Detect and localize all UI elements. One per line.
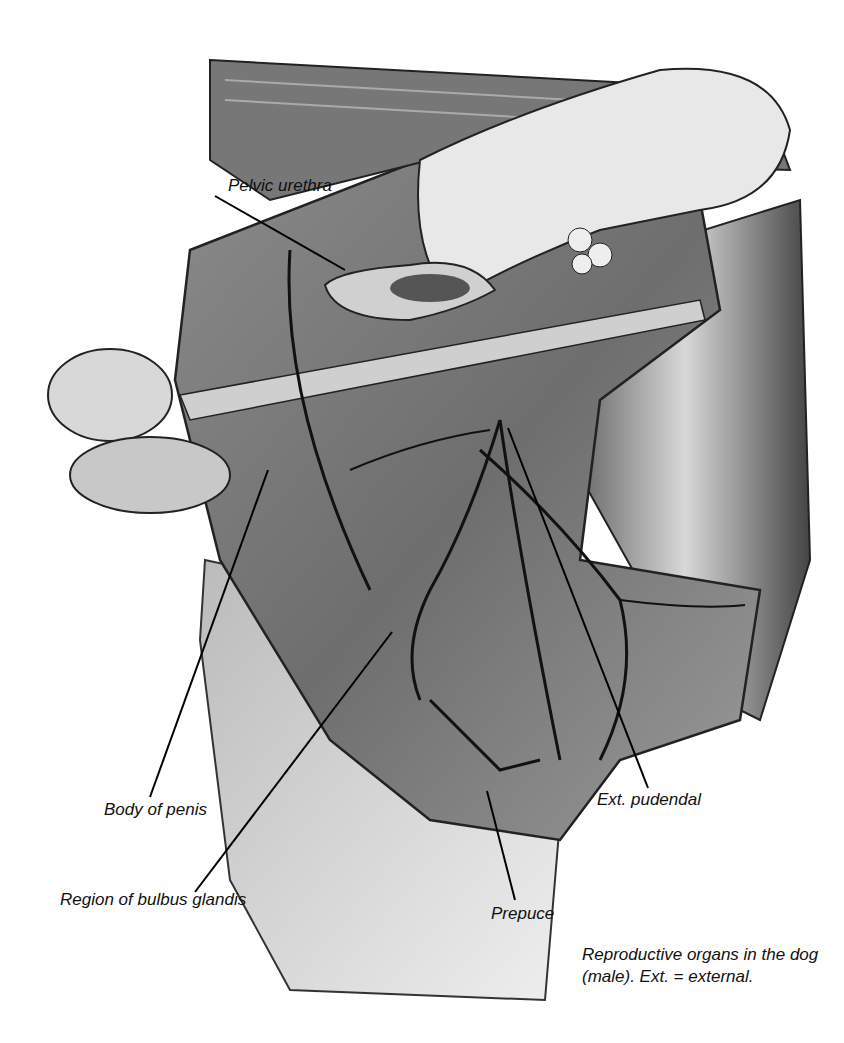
label-prepuce: Prepuce [491, 904, 554, 924]
label-region-of-bulbus-glandis: Region of bulbus glandis [60, 890, 246, 910]
anatomical-illustration [0, 0, 844, 1043]
caption-line-1: Reproductive organs in the dog [582, 944, 832, 966]
label-body-of-penis: Body of penis [104, 800, 207, 820]
label-pelvic-urethra: Pelvic urethra [228, 176, 332, 196]
label-ext-pudendal: Ext. pudendal [597, 790, 701, 810]
caption-line-2: (male). Ext. = external. [582, 966, 832, 988]
figure-caption: Reproductive organs in the dog (male). E… [582, 944, 832, 988]
